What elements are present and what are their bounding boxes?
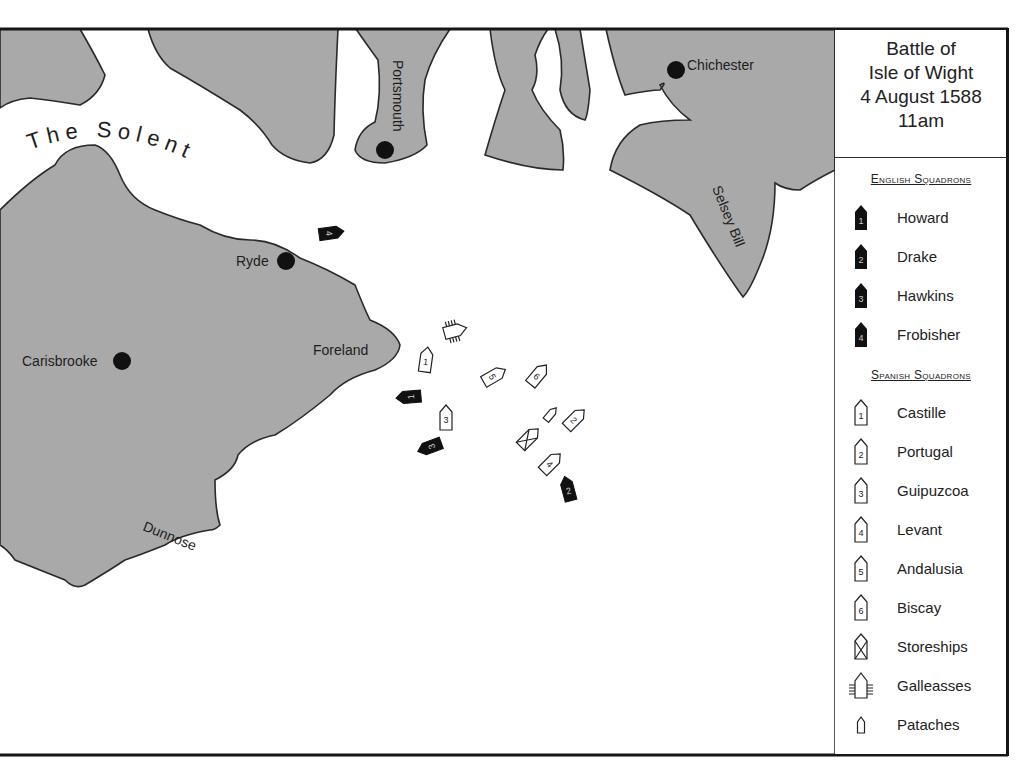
land-masses bbox=[0, 29, 835, 587]
legend-label: Guipuzcoa bbox=[897, 482, 969, 499]
spanish-ship-icon: 6 bbox=[851, 593, 871, 623]
spanish-ship-icon: 3 bbox=[851, 476, 871, 506]
legend-panel: Battle of Isle of Wight 4 August 1588 11… bbox=[835, 29, 1007, 754]
english-squadrons-heading: English Squadrons bbox=[835, 172, 1007, 186]
legend-label: Galleasses bbox=[897, 677, 971, 694]
portsmouth-label: Portsmouth bbox=[390, 60, 406, 132]
spanish-ship-levant[interactable]: 4 bbox=[538, 450, 564, 476]
legend-item-pataches: Pataches bbox=[845, 710, 1005, 740]
spanish-storeship[interactable] bbox=[516, 425, 542, 451]
spanish-galleass[interactable] bbox=[441, 317, 469, 344]
portsmouth-town-marker bbox=[376, 141, 394, 159]
legend-item-biscay: 6 Biscay bbox=[845, 593, 1005, 623]
english-ship-drake[interactable]: 2 bbox=[559, 475, 577, 502]
legend-item-andalusia: 5 Andalusia bbox=[845, 554, 1005, 584]
legend-item-frobisher: 4 Frobisher bbox=[845, 320, 1005, 350]
svg-text:1: 1 bbox=[858, 216, 863, 226]
svg-text:5: 5 bbox=[858, 567, 863, 577]
legend-label: Storeships bbox=[897, 638, 968, 655]
chichester-label: Chichester bbox=[687, 57, 754, 73]
spanish-ship-andalusia[interactable]: 5 bbox=[481, 364, 509, 387]
english-ship-icon: 2 bbox=[851, 242, 871, 272]
legend-label: Drake bbox=[897, 248, 937, 265]
carisbrooke-label: Carisbrooke bbox=[22, 353, 98, 369]
foreland-label: Foreland bbox=[313, 342, 368, 358]
svg-text:1: 1 bbox=[406, 394, 416, 400]
map-title: Battle of Isle of Wight 4 August 1588 11… bbox=[835, 37, 1007, 133]
title-line-2: Isle of Wight bbox=[835, 61, 1007, 85]
carisbrooke-town-marker bbox=[113, 352, 131, 370]
legend-item-howard: 1 Howard bbox=[845, 203, 1005, 233]
legend-label: Castille bbox=[897, 404, 946, 421]
legend-item-hawkins: 3 Hawkins bbox=[845, 281, 1005, 311]
spanish-ships: 1 3 5 6 2 4 bbox=[418, 317, 588, 476]
legend-item-storeships: Storeships bbox=[845, 632, 1005, 662]
storeship-icon bbox=[851, 632, 871, 662]
svg-text:2: 2 bbox=[858, 450, 863, 460]
spanish-ship-icon: 2 bbox=[851, 437, 871, 467]
svg-text:4: 4 bbox=[858, 333, 863, 343]
spanish-ship-icon: 4 bbox=[851, 515, 871, 545]
legend-label: Frobisher bbox=[897, 326, 960, 343]
spanish-ship-biscay[interactable]: 6 bbox=[526, 361, 551, 388]
svg-text:1: 1 bbox=[858, 411, 863, 421]
title-line-4: 11am bbox=[835, 109, 1007, 133]
legend-item-levant: 4 Levant bbox=[845, 515, 1005, 545]
legend-label: Andalusia bbox=[897, 560, 963, 577]
legend-label: Levant bbox=[897, 521, 942, 538]
legend-item-portugal: 2 Portugal bbox=[845, 437, 1005, 467]
galleass-icon bbox=[846, 671, 876, 701]
legend-divider bbox=[835, 157, 1007, 158]
svg-text:6: 6 bbox=[858, 606, 863, 616]
spanish-ship-icon: 5 bbox=[851, 554, 871, 584]
english-ship-icon: 3 bbox=[851, 281, 871, 311]
english-ship-icon: 1 bbox=[851, 203, 871, 233]
legend-label: Portugal bbox=[897, 443, 953, 460]
chichester-town-marker bbox=[667, 61, 685, 79]
svg-text:3: 3 bbox=[858, 489, 863, 499]
legend-item-drake: 2 Drake bbox=[845, 242, 1005, 272]
legend-label: Hawkins bbox=[897, 287, 954, 304]
ryde-town-marker bbox=[277, 252, 295, 270]
land-thorney bbox=[555, 29, 590, 120]
english-ship-howard[interactable]: 1 bbox=[396, 390, 422, 404]
svg-text:4: 4 bbox=[858, 528, 863, 538]
svg-text:3: 3 bbox=[858, 294, 863, 304]
svg-text:2: 2 bbox=[858, 255, 863, 265]
land-hayling bbox=[485, 29, 564, 170]
spanish-squadrons-heading: Spanish Squadrons bbox=[835, 368, 1007, 382]
legend-item-galleasses: Galleasses bbox=[845, 671, 1005, 701]
spanish-ship-portugal[interactable]: 2 bbox=[562, 406, 588, 432]
legend-label: Biscay bbox=[897, 599, 941, 616]
english-ship-hawkins[interactable]: 3 bbox=[416, 437, 444, 457]
title-line-1: Battle of bbox=[835, 37, 1007, 61]
english-ship-icon: 4 bbox=[851, 320, 871, 350]
spanish-ship-guipuzcoa[interactable]: 3 bbox=[440, 405, 452, 430]
title-line-3: 4 August 1588 bbox=[835, 85, 1007, 109]
legend-item-castille: 1 Castille bbox=[845, 398, 1005, 428]
english-ship-frobisher[interactable]: 4 bbox=[318, 225, 344, 240]
ryde-label: Ryde bbox=[236, 253, 269, 269]
legend-label: Pataches bbox=[897, 716, 960, 733]
spanish-patache[interactable] bbox=[543, 406, 559, 423]
spanish-ship-castille[interactable]: 1 bbox=[418, 346, 433, 372]
patache-icon bbox=[851, 710, 871, 740]
svg-text:3: 3 bbox=[443, 415, 448, 425]
legend-label: Howard bbox=[897, 209, 949, 226]
legend-item-guipuzcoa: 3 Guipuzcoa bbox=[845, 476, 1005, 506]
spanish-ship-icon: 1 bbox=[851, 398, 871, 428]
land-mainland-west bbox=[0, 29, 105, 108]
